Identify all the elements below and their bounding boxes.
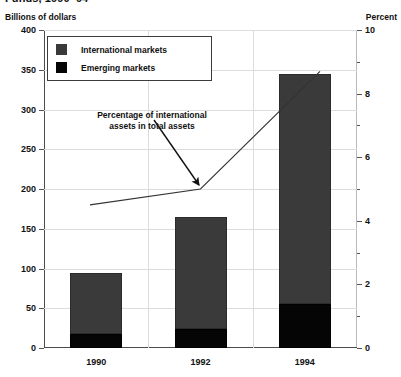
y-tick-label-left: 300 xyxy=(21,105,36,115)
y-tick-label-left: 200 xyxy=(21,184,36,194)
y-tick-label-right: 0 xyxy=(365,343,370,353)
y-tick-right-minor xyxy=(357,316,360,317)
y-tick-right-minor xyxy=(357,125,360,126)
y-tick-label-right: 8 xyxy=(365,89,370,99)
y-tick-right xyxy=(357,348,362,349)
y-tick-label-left: 250 xyxy=(21,144,36,154)
y-tick-right xyxy=(357,30,362,31)
x-tick-label: 1990 xyxy=(86,357,106,367)
y-tick-label-left: 400 xyxy=(21,25,36,35)
legend-swatch-international-icon xyxy=(56,44,67,55)
y-tick-right-minor xyxy=(357,253,360,254)
legend-swatch-emerging-icon xyxy=(56,62,67,73)
y-axis-caption-right: Percent xyxy=(366,12,397,22)
y-tick-label-left: 350 xyxy=(21,65,36,75)
y-tick-label-right: 4 xyxy=(365,216,370,226)
x-tick-label: 1994 xyxy=(295,357,315,367)
annotation-line-1: Percentage of international xyxy=(72,110,232,121)
y-tick-label-right: 6 xyxy=(365,152,370,162)
chart-title: Funds, 1990–94 xyxy=(5,0,88,4)
y-tick-right-minor xyxy=(357,189,360,190)
legend-label-international: International markets xyxy=(81,45,167,55)
x-tick-label: 1992 xyxy=(190,357,210,367)
legend-item-international: International markets xyxy=(56,42,205,57)
y-tick-label-left: 50 xyxy=(26,303,36,313)
chart-root: Funds, 1990–94 Billions of dollars Perce… xyxy=(0,0,401,377)
y-tick-right xyxy=(357,221,362,222)
y-tick-left xyxy=(39,348,44,349)
y-tick-label-right: 2 xyxy=(365,279,370,289)
y-tick-right-minor xyxy=(357,62,360,63)
legend-label-emerging: Emerging markets xyxy=(81,63,155,73)
y-tick-right xyxy=(357,284,362,285)
y-tick-label-right: 10 xyxy=(365,25,375,35)
y-tick-right xyxy=(357,157,362,158)
annotation-text: Percentage of international assets in to… xyxy=(72,110,232,132)
y-tick-label-left: 150 xyxy=(21,224,36,234)
y-axis-caption-left: Billions of dollars xyxy=(5,12,76,22)
y-tick-label-left: 0 xyxy=(31,343,36,353)
y-tick-right xyxy=(357,94,362,95)
annotation-line-2: assets in total assets xyxy=(72,121,232,132)
legend: International markets Emerging markets xyxy=(47,36,212,81)
legend-item-emerging: Emerging markets xyxy=(56,60,205,75)
y-tick-label-left: 100 xyxy=(21,264,36,274)
